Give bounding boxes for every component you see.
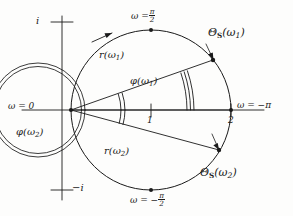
phi-omega2-inner-arc-a	[119, 110, 121, 124]
label-theta-s-omega1: ΘS(ω1)	[208, 27, 245, 40]
label-omega-negative-pi-over-two: ω = −π2	[130, 192, 165, 208]
phi-arg-open: (ω	[23, 126, 35, 137]
label-omega-negative-pi: ω = −π	[237, 101, 271, 110]
label-r-omega2: r(ω2)	[104, 146, 129, 158]
phi-arg-close: )	[40, 126, 44, 137]
phi-arg-close: )	[154, 75, 158, 86]
phi-omega1-inner-arc-b	[122, 93, 125, 110]
point-omega-pi-over-2	[149, 28, 153, 32]
label-theta-s-omega2: ΘS(ω2)	[200, 167, 237, 180]
theta-symbol: Θ	[200, 166, 209, 179]
ray-r-omega2	[71, 110, 219, 150]
r-arg-open: (ω	[104, 49, 116, 60]
omega-equals-neg-text: ω = −	[130, 195, 158, 205]
fraction-denominator: 2	[158, 200, 165, 207]
phi-omega1-inner-arc-a	[118, 94, 121, 110]
leader-theta-s-omega2	[212, 134, 219, 150]
fraction-pi-over-two: π2	[149, 8, 156, 24]
point-omega-neg-pi	[229, 108, 233, 112]
label-phi-omega1: φ(ω1)	[130, 76, 157, 88]
axis-label-i: i	[36, 16, 39, 26]
theta-arg-close: )	[240, 26, 244, 39]
tick-label-two: 2	[228, 116, 234, 125]
theta-symbol: Θ	[208, 26, 217, 39]
phi-arg-open: (ω	[137, 75, 149, 86]
theta-arg-open: (ω	[222, 26, 235, 39]
omega-equals-text: ω =	[131, 11, 149, 21]
phi-omega2-inner-arc-b	[123, 110, 125, 125]
label-phi-omega2: φ(ω2)	[16, 127, 43, 139]
phi-symbol: φ	[130, 75, 137, 86]
leader-theta-s-omega1	[206, 44, 214, 60]
fraction-denominator: 2	[149, 16, 156, 23]
phi-symbol: φ	[16, 126, 23, 137]
r-arg-close: )	[125, 145, 129, 156]
origin-point	[69, 108, 73, 112]
label-r-omega1: r(ω1)	[99, 50, 124, 62]
theta-arg-close: )	[232, 166, 236, 179]
r-arg-close: )	[120, 49, 124, 60]
r-arg-open: (ω	[109, 145, 121, 156]
label-omega-zero: ω = 0	[8, 102, 34, 111]
direction-arrow-icon	[92, 33, 112, 42]
theta-arg-open: (ω	[214, 166, 227, 179]
tick-label-one: 1	[147, 116, 153, 125]
label-omega-pi-over-two: ω =π2	[131, 8, 155, 24]
axis-label-negative-i: −i	[72, 183, 84, 193]
complex-plane-figure: i −i ω = 0 ω = −π ω =π2 ω = −π2 ΘS(ω1) Θ…	[0, 0, 293, 216]
fraction-neg-pi-over-two: π2	[158, 192, 165, 208]
